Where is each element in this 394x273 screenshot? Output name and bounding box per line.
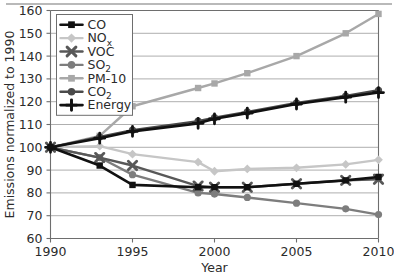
y-axis-tick-labels: 60708090100110120130140150160: [19, 3, 43, 246]
x-axis-title: Year: [200, 260, 228, 273]
series-nox-pt-2010-diamond-marker: [374, 155, 383, 164]
series-energy-pt-2002-plus-marker: [242, 108, 252, 118]
series-energy-pt-2000-plus-marker: [210, 114, 220, 124]
series-so2-pt-1995-circle-marker: [129, 171, 136, 178]
series-nox-pt-1995-diamond-marker: [128, 150, 137, 159]
series-energy-pt-2005-plus-marker: [292, 99, 302, 109]
series-nox-pt-2002-diamond-marker: [243, 165, 252, 174]
series-pm-10-pt-2002-square-marker: [244, 70, 250, 76]
series-so2-pt-2008-circle-marker: [342, 205, 349, 212]
series-pm-10-pt-2008-square-marker: [343, 30, 349, 36]
y-tick-label-100: 100: [19, 140, 43, 155]
legend-swatch-co-square-marker: [68, 21, 75, 28]
y-tick-label-70: 70: [27, 208, 43, 223]
y-tick-label-160: 160: [19, 3, 43, 18]
x-tick-label-2010: 2010: [363, 244, 394, 259]
series-co-pt-2008-square-marker: [343, 177, 349, 183]
series-co-pt-1995-square-marker: [129, 182, 135, 188]
y-tick-label-130: 130: [19, 71, 43, 86]
y-axis-title: Emissions normalized to 1990: [2, 31, 17, 219]
chart-canvas: 60708090100110120130140150160 1990199520…: [0, 0, 394, 273]
legend-swatch-co2-circle-marker: [68, 88, 76, 96]
y-tick-label-110: 110: [19, 117, 43, 132]
x-tick-label-1995: 1995: [117, 244, 149, 259]
series-pm-10-pt-2005-square-marker: [293, 53, 299, 59]
series-nox-pt-2005-diamond-marker: [292, 163, 301, 172]
series-energy-pt-1995-plus-marker: [128, 126, 138, 136]
chart-legend: CONOxVOCSO2PM-10CO2Energy: [57, 15, 133, 116]
legend-swatch-so2-circle-marker: [68, 61, 76, 69]
series-energy-pt-1993-plus-marker: [95, 133, 105, 143]
legend-swatch-pm-10-square-marker: [68, 75, 75, 82]
series-so2-pt-2005-circle-marker: [293, 200, 300, 207]
x-tick-label-2000: 2000: [199, 244, 231, 259]
emissions-line-chart: 60708090100110120130140150160 1990199520…: [0, 0, 394, 273]
series-co-pt-2005-square-marker: [293, 181, 299, 187]
y-tick-label-150: 150: [19, 26, 43, 41]
y-tick-label-120: 120: [19, 94, 43, 109]
series-pm-10-pt-2000-square-marker: [211, 80, 217, 86]
y-tick-label-80: 80: [27, 185, 43, 200]
series-so2-pt-2002-circle-marker: [244, 194, 251, 201]
series-co-pt-2002-square-marker: [244, 184, 250, 190]
y-tick-label-90: 90: [27, 163, 43, 178]
series-co-pt-1999-square-marker: [195, 184, 201, 190]
x-axis-tick-labels: 19901995200020052010: [35, 244, 394, 259]
series-pm-10-pt-1999-square-marker: [195, 85, 201, 91]
series-energy-pt-2010-plus-marker: [374, 88, 384, 98]
x-tick-label-1990: 1990: [35, 244, 67, 259]
y-tick-label-140: 140: [19, 49, 43, 64]
series-pm-10-pt-2010-square-marker: [375, 11, 381, 17]
legend-item-energy[interactable]: Energy: [61, 97, 132, 112]
series-co-pt-2000-square-marker: [211, 184, 217, 190]
series-nox-pt-2008-diamond-marker: [341, 160, 350, 169]
series-co-pt-2010-square-marker: [375, 174, 381, 180]
series-so2-pt-2010-circle-marker: [375, 211, 382, 218]
series-energy-pt-2008-plus-marker: [341, 92, 351, 102]
legend-label-energy: Energy: [88, 97, 132, 112]
x-tick-label-2005: 2005: [281, 244, 313, 259]
series-co-pt-1993-square-marker: [97, 162, 103, 168]
